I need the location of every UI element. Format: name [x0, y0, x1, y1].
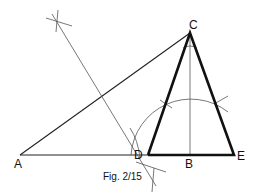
- point-label-E: E: [237, 149, 245, 163]
- figure-caption: Fig. 2/15: [103, 171, 142, 182]
- geometry-diagram: A B C D E Fig. 2/15: [0, 0, 257, 193]
- construction-arc-mark: [46, 18, 72, 26]
- point-label-C: C: [189, 18, 198, 32]
- construction-arc: [131, 99, 228, 155]
- point-label-B: B: [185, 157, 193, 171]
- point-label-A: A: [14, 157, 22, 171]
- segment-AC: [20, 33, 190, 155]
- point-label-D: D: [134, 148, 143, 162]
- triangle-CDE: [148, 33, 234, 155]
